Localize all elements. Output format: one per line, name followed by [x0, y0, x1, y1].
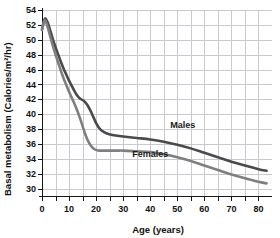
x-tick-label: 70	[226, 204, 236, 214]
y-tick-label: 50	[26, 35, 36, 45]
x-axis-title: Age (years)	[132, 224, 184, 235]
x-axis-tick-labels: 01020304050607080	[39, 204, 263, 214]
y-tick-label: 52	[26, 20, 36, 30]
x-tick-label: 20	[91, 204, 101, 214]
x-tick-label: 40	[145, 204, 155, 214]
x-tick-label: 60	[199, 204, 209, 214]
y-tick-label: 32	[26, 169, 36, 179]
y-tick-label: 36	[26, 139, 36, 149]
y-tick-label: 48	[26, 50, 36, 60]
y-axis-tick-labels: 30323436384042444648505254	[26, 5, 36, 194]
y-tick-label: 44	[26, 80, 36, 90]
x-tick-label: 0	[39, 204, 44, 214]
chart-figure: 30323436384042444648505254 0102030405060…	[0, 0, 280, 238]
y-tick-label: 40	[26, 109, 36, 119]
series-annotations: MalesFemales	[132, 120, 195, 159]
series-label-females: Females	[132, 149, 168, 159]
y-tick-label: 42	[26, 94, 36, 104]
y-axis-title: Basal metabolism (Calories/m²/hr)	[2, 42, 13, 196]
series-label-males: Males	[170, 120, 195, 130]
y-tick-label: 46	[26, 65, 36, 75]
x-tick-label: 10	[64, 204, 74, 214]
grid-lines	[42, 10, 272, 196]
x-tick-label: 50	[172, 204, 182, 214]
series-curve-males	[42, 19, 267, 171]
y-tick-label: 54	[26, 5, 36, 15]
x-tick-label: 30	[118, 204, 128, 214]
y-tick-label: 30	[26, 184, 36, 194]
y-tick-label: 34	[26, 154, 36, 164]
basal-metabolism-line-chart: 30323436384042444648505254 0102030405060…	[0, 0, 280, 238]
y-tick-label: 38	[26, 124, 36, 134]
x-tick-label: 80	[253, 204, 263, 214]
